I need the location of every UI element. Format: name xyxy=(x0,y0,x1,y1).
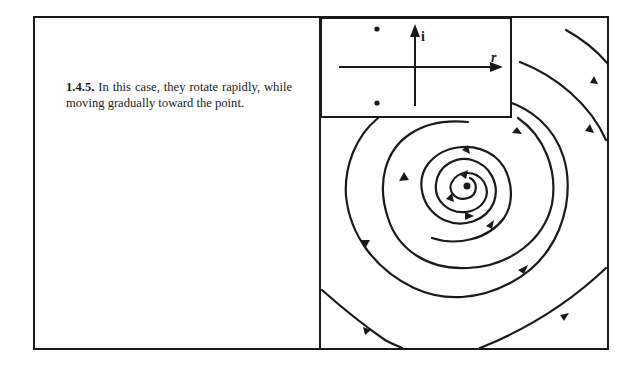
arrow-icon xyxy=(360,240,370,249)
eigenvalue-point-lower xyxy=(374,100,379,105)
arrow-icon xyxy=(399,172,409,181)
eigenvalue-inset: i r xyxy=(321,18,511,117)
imag-axis-label: i xyxy=(421,29,425,44)
arrow-icon xyxy=(590,76,598,84)
phase-portrait: i r xyxy=(0,0,640,370)
arrow-icon xyxy=(486,220,494,229)
arrow-icon xyxy=(512,127,522,134)
arrow-icon xyxy=(585,124,594,133)
eigenvalue-point-upper xyxy=(374,26,379,31)
arrow-icon xyxy=(459,170,468,179)
real-axis-label: r xyxy=(491,50,497,65)
arrow-icon xyxy=(465,212,474,220)
fixed-point xyxy=(464,183,471,190)
arrow-icon xyxy=(560,313,569,321)
